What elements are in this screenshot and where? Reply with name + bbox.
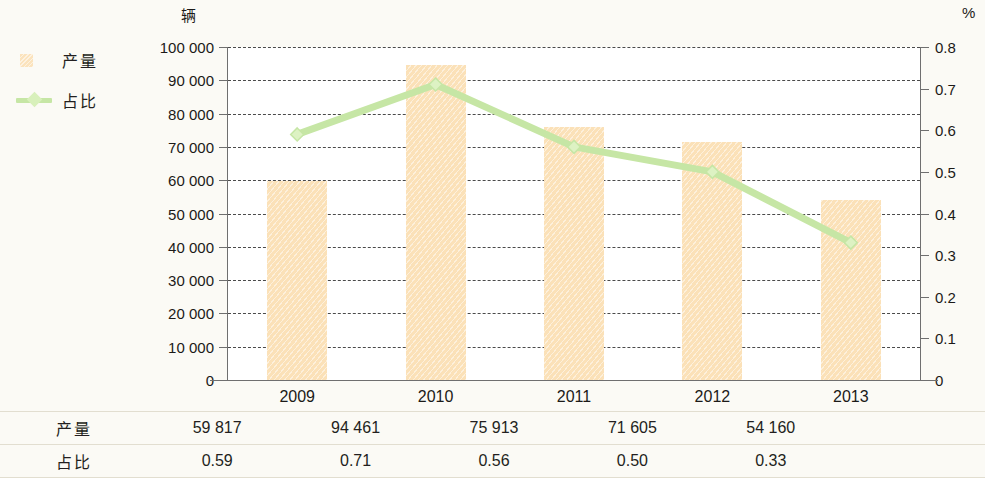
x-axis-tick-label: 2012 [662, 388, 762, 406]
table-cell: 94 461 [286, 412, 424, 445]
right-axis-tick-label: 0.6 [935, 123, 956, 138]
legend-item-bar: 产量 [16, 45, 136, 75]
table-row-header: 占比 [0, 445, 148, 478]
line-series [228, 47, 920, 380]
table-cell: 0.59 [148, 445, 286, 478]
left-axis-tick-label: 40 000 [168, 240, 214, 255]
right-axis-tick [920, 297, 929, 298]
left-axis-tick-label: 50 000 [168, 207, 214, 222]
left-axis-tick-label: 30 000 [168, 273, 214, 288]
table-row-header: 产量 [0, 412, 148, 445]
left-axis-tick-label: 70 000 [168, 140, 214, 155]
right-axis-tick [920, 172, 929, 173]
left-axis-tick-label: 90 000 [168, 73, 214, 88]
left-axis-tick-label: 20 000 [168, 306, 214, 321]
right-axis-tick-label: 0.5 [935, 165, 956, 180]
right-axis-tick [920, 47, 929, 48]
table-cell: 0.33 [702, 445, 840, 478]
right-axis-line [920, 47, 921, 381]
line-marker-icon [16, 89, 56, 111]
table-row: 占比0.590.710.560.500.33 [0, 445, 985, 478]
x-axis-tick-label: 2010 [386, 388, 486, 406]
right-axis-tick [920, 130, 929, 131]
legend-label-bar: 产量 [62, 48, 98, 72]
x-axis-tick-label: 2011 [524, 388, 624, 406]
left-axis-tick-label: 100 000 [160, 40, 214, 55]
right-axis-tick [920, 338, 929, 339]
table-cell-spacer [840, 445, 985, 478]
right-axis-tick-label: 0.2 [935, 290, 956, 305]
table-cell-spacer [840, 412, 985, 445]
chart-legend: 产量 占比 [16, 45, 136, 125]
legend-item-line: 占比 [16, 85, 136, 115]
x-axis-line [210, 380, 938, 381]
legend-label-line: 占比 [62, 88, 98, 112]
left-axis-unit-label: 辆 [181, 4, 196, 25]
right-axis-unit-label: % [962, 4, 975, 21]
table-cell: 0.56 [425, 445, 563, 478]
left-axis-tick-label: 10 000 [168, 340, 214, 355]
data-table: 产量59 81794 46175 91371 60554 160占比0.590.… [0, 411, 985, 478]
right-axis-tick-label: 0.1 [935, 331, 956, 346]
left-axis-line [227, 47, 228, 381]
right-axis-tick [920, 255, 929, 256]
right-axis-tick-label: 0.3 [935, 248, 956, 263]
table-cell: 54 160 [702, 412, 840, 445]
x-axis-tick-label: 2009 [247, 388, 347, 406]
table-cell: 75 913 [425, 412, 563, 445]
right-axis-tick-label: 0.8 [935, 40, 956, 55]
left-axis-tick-label: 60 000 [168, 173, 214, 188]
table-row: 产量59 81794 46175 91371 60554 160 [0, 412, 985, 445]
right-axis-tick [920, 214, 929, 215]
right-axis-tick-label: 0.7 [935, 82, 956, 97]
table-cell: 71 605 [563, 412, 701, 445]
left-axis-tick-label: 80 000 [168, 107, 214, 122]
bar-swatch-icon [16, 49, 56, 71]
table-cell: 59 817 [148, 412, 286, 445]
x-axis-tick-label: 2013 [801, 388, 901, 406]
table-cell: 0.71 [286, 445, 424, 478]
right-axis-tick [920, 89, 929, 90]
table-cell: 0.50 [563, 445, 701, 478]
right-axis-tick-label: 0.4 [935, 207, 956, 222]
